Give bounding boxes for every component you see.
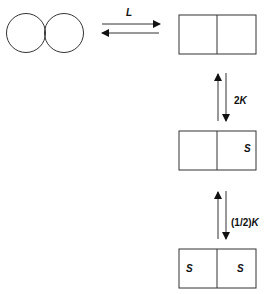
rate-label-2k: 2K — [234, 95, 248, 106]
state-box-2: S — [179, 131, 256, 170]
monomer-circle-right — [45, 14, 84, 53]
monomer-circle-left — [7, 14, 46, 53]
equilibrium-arrows-l: L — [102, 7, 160, 33]
binding-arrows-half-k: (1/2)K — [218, 191, 260, 239]
state3-right-site: S — [237, 263, 244, 274]
monomer-pair — [7, 14, 84, 53]
state3-left-site: S — [186, 263, 193, 274]
state-box-3: S S — [179, 249, 256, 288]
binding-arrows-2k: 2K — [218, 73, 248, 121]
kinetic-scheme-diagram: L 2K S (1/2)K S S — [0, 0, 266, 294]
state-box-1 — [179, 15, 256, 54]
state2-right-site: S — [244, 143, 251, 154]
equilibrium-label: L — [126, 7, 132, 18]
rate-label-half-k: (1/2)K — [231, 217, 260, 228]
